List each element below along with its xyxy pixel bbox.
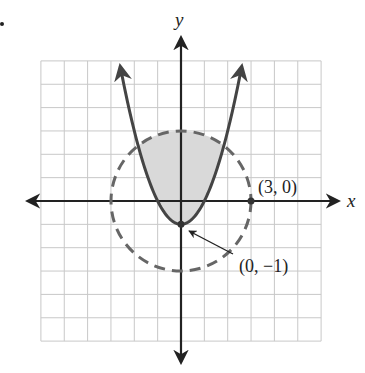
graph-figure: x y (3, 0) (0, −1) [0, 0, 365, 373]
point-3-0-marker [248, 198, 255, 205]
point-0-neg1-marker [178, 221, 185, 228]
y-axis-label: y [173, 9, 184, 30]
point-label-0-neg1: (0, −1) [239, 256, 288, 277]
x-axis-label: x [346, 190, 356, 211]
annotation-arrow [189, 231, 233, 254]
point-label-3-0: (3, 0) [258, 177, 297, 198]
